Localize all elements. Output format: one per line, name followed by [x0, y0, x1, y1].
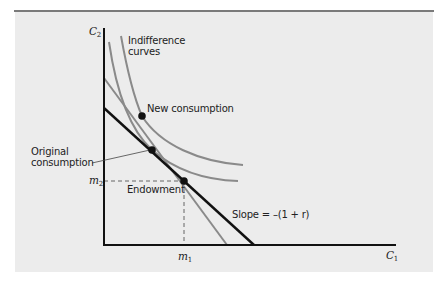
- original-consumption-point: [148, 146, 156, 154]
- endowment-label: Endowment: [127, 184, 185, 195]
- x-axis-label: C1: [386, 250, 398, 265]
- y-axis-label: C2: [89, 26, 101, 41]
- budget-line: [104, 108, 254, 245]
- original-consumption-label: Original consumption: [31, 146, 94, 168]
- m2-tick-label: m2: [89, 175, 103, 190]
- indifference-curves-label: Indifference curves: [128, 35, 185, 57]
- intertemporal-choice-diagram: [0, 0, 440, 282]
- m1-tick-label: m1: [178, 251, 192, 266]
- new-consumption-point: [138, 112, 146, 120]
- original-consumption-leader: [92, 150, 150, 163]
- new-consumption-label: New consumption: [147, 103, 234, 114]
- slope-label: Slope = –(1 + r): [232, 209, 309, 220]
